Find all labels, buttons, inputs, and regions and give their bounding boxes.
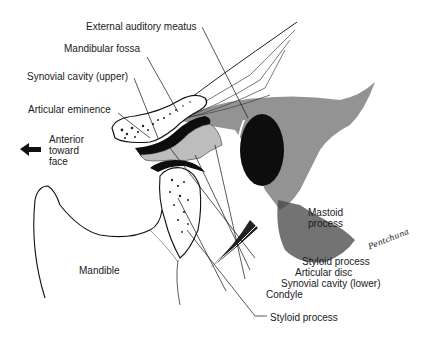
label-articular-eminence: Articular eminence: [28, 104, 111, 115]
ear-canal-shape: [240, 114, 284, 186]
label-synovial-cavity-lower: Synovial cavity (lower): [281, 278, 380, 289]
left-arrow-icon: [20, 143, 41, 156]
tmj-diagram: External auditory meatus Mandibular foss…: [0, 0, 432, 338]
label-synovial-cavity-upper: Synovial cavity (upper): [27, 71, 128, 82]
label-articular-disc: Articular disc: [295, 267, 352, 278]
label-condyle: Condyle: [266, 289, 303, 300]
label-external-auditory-meatus: External auditory meatus: [86, 21, 197, 32]
label-mandible: Mandible: [79, 265, 120, 276]
styloid-process-shape: [210, 220, 258, 268]
condyle-shape: [160, 168, 201, 258]
mandible-outline: [34, 186, 162, 298]
label-mandibular-fossa: Mandibular fossa: [64, 43, 140, 54]
label-mastoid-process: Mastoid process: [308, 207, 343, 229]
label-anterior-toward-face: Anterior toward face: [49, 134, 84, 167]
label-styloid-process-upper: Styloid process: [302, 256, 370, 267]
label-styloid-process-lower: Styloid process: [270, 312, 338, 323]
